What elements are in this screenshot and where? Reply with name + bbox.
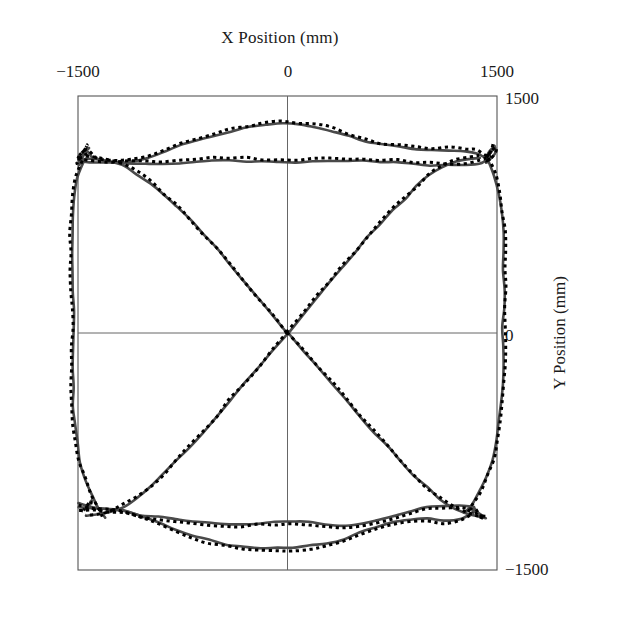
series-measured-path-solid: [72, 123, 505, 548]
plot-area: [0, 0, 639, 617]
figure-container: X Position (mm) −1500 0 1500 1500 0 −150…: [0, 0, 639, 617]
